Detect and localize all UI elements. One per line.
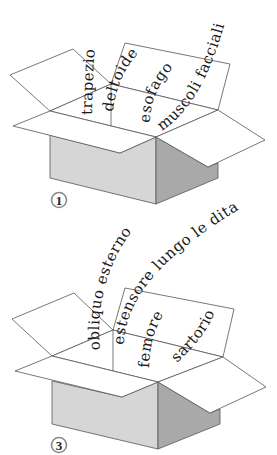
box-1-label-badge: 1	[52, 193, 67, 208]
box-1: trapezio deltoide esofago muscoli faccia…	[10, 21, 265, 208]
boxes-diagram: trapezio deltoide esofago muscoli faccia…	[0, 0, 277, 455]
box-1-label: 1	[56, 193, 63, 208]
word-trapezio: trapezio	[78, 48, 99, 115]
box-3-label: 3	[56, 438, 63, 453]
box-3-label-badge: 3	[52, 438, 67, 453]
box-3: obliquo esterno estensore lungo le dita …	[12, 197, 266, 452]
